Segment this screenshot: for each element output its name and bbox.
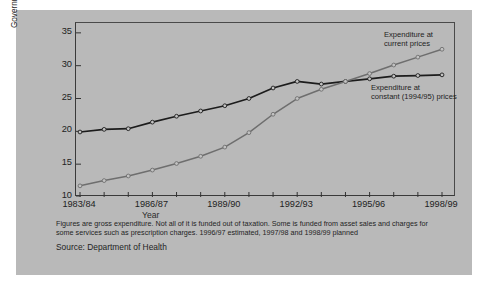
series-label-constant-prices-line1: Expenditure at: [371, 83, 457, 92]
chart-canvas: [76, 23, 456, 197]
x-tick-label: 1983/84: [62, 199, 95, 209]
data-point: [175, 162, 179, 166]
data-point: [102, 127, 106, 131]
data-point: [78, 184, 82, 188]
data-point: [440, 73, 444, 77]
data-point: [102, 179, 106, 183]
data-point: [416, 74, 420, 78]
data-point: [126, 127, 130, 131]
data-point: [199, 154, 203, 158]
data-point: [151, 120, 155, 124]
series-label-current-prices-line1: Expenditure at: [384, 30, 433, 39]
series-label-current-prices-line2: current prices: [384, 39, 433, 48]
footnote: Figures are gross expenditure. Not all o…: [56, 219, 456, 238]
x-tick-label: 1989/90: [207, 199, 240, 209]
data-point: [295, 97, 299, 101]
data-point: [199, 109, 203, 113]
data-point: [319, 87, 323, 91]
y-axis-title-line2: (£ billion): [20, 0, 30, 48]
data-point: [175, 114, 179, 118]
footnote-line1: Figures are gross expenditure. Not all o…: [56, 219, 456, 228]
data-point: [271, 112, 275, 116]
data-point: [295, 80, 299, 84]
data-point: [416, 55, 420, 59]
data-point: [151, 168, 155, 172]
data-point: [440, 47, 444, 51]
data-point: [392, 63, 396, 67]
data-point: [247, 131, 251, 135]
data-point: [319, 82, 323, 86]
data-point: [368, 77, 372, 81]
data-point: [247, 97, 251, 101]
y-tick-label: 25: [46, 93, 72, 102]
data-point: [368, 72, 372, 76]
series-label-constant-prices-line2: constant (1994/95) prices: [371, 92, 457, 101]
y-axis-title: Government expenditure (£ billion): [10, 0, 30, 48]
data-point: [271, 86, 275, 90]
figure-panel: Government expenditure (£ billion) 10152…: [16, 10, 472, 275]
data-point: [223, 104, 227, 108]
x-tick-label: 1992/93: [280, 199, 313, 209]
source-credit: Source: Department of Health: [56, 242, 167, 252]
x-tick-label: 1998/99: [424, 199, 457, 209]
y-tick-label: 30: [46, 60, 72, 69]
y-axis-ticks: 101520253035: [42, 10, 72, 200]
series-line-current-prices: [80, 49, 442, 186]
series-label-current-prices: Expenditure at current prices: [384, 30, 433, 48]
x-tick-label: 1986/87: [135, 199, 168, 209]
y-tick-label: 15: [46, 158, 72, 167]
data-point: [223, 145, 227, 149]
y-tick-label: 20: [46, 125, 72, 134]
data-point: [392, 74, 396, 78]
y-axis-title-line1: Government expenditure: [10, 0, 19, 28]
data-point: [78, 130, 82, 134]
series-label-constant-prices: Expenditure at constant (1994/95) prices: [371, 83, 457, 101]
x-tick-label: 1995/96: [352, 199, 385, 209]
data-point: [344, 80, 348, 84]
y-tick-label: 35: [46, 27, 72, 36]
footnote-line2: some services such as prescription charg…: [56, 228, 456, 237]
data-point: [126, 174, 130, 178]
